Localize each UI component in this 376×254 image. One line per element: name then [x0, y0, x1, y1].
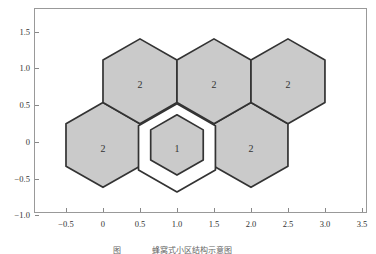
hexagon-cell-label: 2 — [137, 79, 142, 90]
y-axis-tick-label: 1.0 — [19, 63, 30, 73]
figure-page: −0.500.51.01.52.02.53.03.5−1.0−0.500.51.… — [0, 0, 376, 254]
x-axis-tick-label: 2.5 — [283, 219, 294, 229]
hexagon-cell-label: 2 — [211, 79, 216, 90]
figure-caption: 图 蜂窝式小区结构示意图 — [0, 246, 376, 254]
x-axis-tick-label: 3.0 — [320, 219, 331, 229]
x-axis-tick-label: 1.5 — [209, 219, 220, 229]
hexagon-cell-plot: −0.500.51.01.52.02.53.03.5−1.0−0.500.51.… — [0, 0, 376, 242]
figure-caption-label: 图 — [113, 246, 121, 254]
y-axis-tick-label: −1.0 — [15, 210, 30, 220]
x-axis-tick-label: 0.5 — [135, 219, 146, 229]
hexagon-cell-label: 2 — [100, 143, 105, 154]
x-axis-tick-label: 2.0 — [246, 219, 257, 229]
y-axis-tick-label: 1.5 — [19, 27, 30, 37]
y-axis-tick-label: −0.5 — [15, 174, 30, 184]
figure-caption-title: 蜂窝式小区结构示意图 — [152, 246, 232, 254]
x-axis-tick-label: −0.5 — [58, 219, 73, 229]
x-axis-tick-label: 0 — [101, 219, 105, 229]
y-axis-tick-label: 0 — [26, 137, 30, 147]
x-axis-tick-label: 1.0 — [172, 219, 183, 229]
x-axis-tick-label: 3.5 — [357, 219, 368, 229]
hexagon-cell-label: 2 — [285, 79, 290, 90]
hexagon-cell-label: 2 — [248, 143, 253, 154]
y-axis-tick-label: 0.5 — [19, 100, 30, 110]
center-hexagon-label: 1 — [174, 143, 179, 154]
